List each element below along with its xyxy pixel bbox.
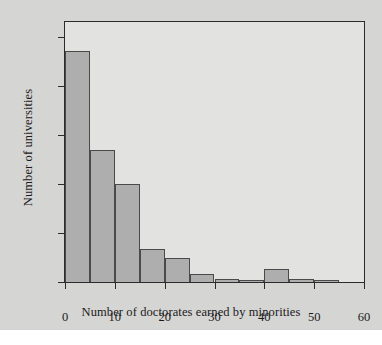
histogram-bar (90, 150, 115, 282)
y-axis-tick (58, 37, 65, 38)
histogram-bar (65, 51, 90, 282)
histogram-bar (215, 279, 240, 282)
histogram-bar (190, 274, 215, 282)
histogram-bar (140, 249, 165, 282)
x-axis-tick-label: 0 (45, 310, 85, 325)
x-axis-tick (65, 282, 66, 289)
x-axis-tick (165, 282, 166, 289)
x-axis-tick (264, 282, 265, 289)
x-axis-tick (364, 282, 365, 289)
x-axis-tick-label: 50 (294, 310, 334, 325)
y-axis-tick (58, 233, 65, 234)
plot-inner (65, 22, 364, 282)
x-axis-tick-label: 10 (95, 310, 135, 325)
y-axis-tick (58, 282, 65, 283)
histogram-bar (165, 258, 190, 282)
y-axis-label: Number of universities (21, 58, 36, 238)
x-axis-tick (215, 282, 216, 289)
plot-area: 010203040500102030405060 (64, 21, 365, 283)
figure-canvas: Number of universities Number of doctora… (0, 0, 382, 330)
y-axis-tick (58, 135, 65, 136)
histogram-bars (65, 22, 364, 282)
histogram-bar (314, 280, 339, 282)
y-axis-tick (58, 184, 65, 185)
x-axis-tick-label: 40 (244, 310, 284, 325)
histogram-bar (264, 269, 289, 282)
histogram-bar (115, 184, 140, 282)
x-axis-tick (314, 282, 315, 289)
histogram-bar (239, 280, 264, 282)
histogram-bar (289, 279, 314, 282)
y-axis-tick (58, 86, 65, 87)
x-axis-tick-label: 60 (344, 310, 382, 325)
x-axis-tick-label: 30 (195, 310, 235, 325)
x-axis-tick-label: 20 (145, 310, 185, 325)
x-axis-tick (115, 282, 116, 289)
